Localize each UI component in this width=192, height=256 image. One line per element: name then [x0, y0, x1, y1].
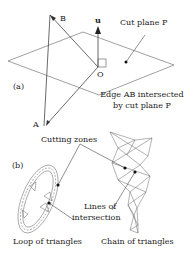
cut-plane-dot	[125, 61, 128, 64]
edge-ab-line	[44, 15, 50, 126]
right-angle-mark	[98, 59, 106, 67]
edge-label-line1: Edge AB intersected	[94, 90, 190, 99]
u-arrowhead-icon	[95, 26, 101, 34]
cutting-zone-dot-chain	[123, 166, 126, 169]
point-o-label: O	[97, 70, 104, 79]
intersection-leader-loop	[49, 203, 74, 220]
cut-plane-label: Cut plane P	[120, 18, 167, 27]
intersection-dot-loop	[47, 201, 50, 204]
intersection-dot-chain	[133, 170, 136, 173]
vector-u-label: u	[95, 16, 101, 25]
cutting-zone-leader-loop	[58, 144, 80, 185]
panel-b-label: (b)	[12, 161, 23, 170]
cutting-zone-dot-loop	[56, 183, 59, 186]
cut-plane-shape	[8, 32, 174, 95]
lines-of-label: Lines of	[84, 202, 116, 211]
cutting-zone-leader-chain	[80, 144, 125, 168]
point-a-label: A	[33, 120, 39, 129]
loop-of-triangles	[10, 160, 67, 239]
point-b-label: B	[60, 14, 66, 23]
cutting-zones-label: Cutting zones	[41, 135, 97, 144]
o-to-a-line	[47, 67, 98, 124]
b-to-o-line	[50, 15, 98, 67]
edge-label-line2: by cut plane P	[94, 101, 190, 110]
loop-caption: Loop of triangles	[13, 237, 82, 246]
panel-a-label: (a)	[13, 82, 24, 91]
chain-caption: Chain of triangles	[101, 237, 174, 246]
intersection-label: intersection	[72, 213, 121, 222]
